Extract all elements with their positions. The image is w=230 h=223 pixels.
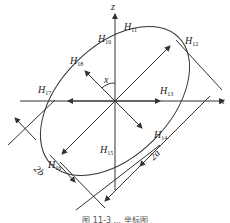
x-axis-label: x (220, 96, 224, 106)
angle-label: x (104, 75, 108, 85)
point-label-h10: H10 (98, 34, 111, 45)
z-axis-label: z (111, 2, 115, 12)
ellipse-coordinate-diagram (0, 0, 230, 223)
point-label-h16: H16 (48, 160, 61, 171)
tangent-line-lower (60, 162, 105, 208)
minor-axis-arrow (85, 71, 115, 101)
tangent-line-right (176, 40, 222, 90)
point-label-h14: H14 (154, 130, 167, 141)
point-label-h15: H15 (100, 145, 113, 156)
point-label-h17: H17 (38, 85, 51, 96)
point-label-h11: H11 (124, 22, 137, 33)
point-label-h12: H12 (185, 36, 198, 47)
figure-caption: 图 11-3 ... 坐标图 (0, 214, 230, 223)
tangent-line-left (8, 100, 55, 145)
minor-axis-arrow-lower (115, 101, 142, 128)
point-label-h13: H13 (160, 86, 173, 97)
point-label-h18: H18 (70, 56, 83, 67)
